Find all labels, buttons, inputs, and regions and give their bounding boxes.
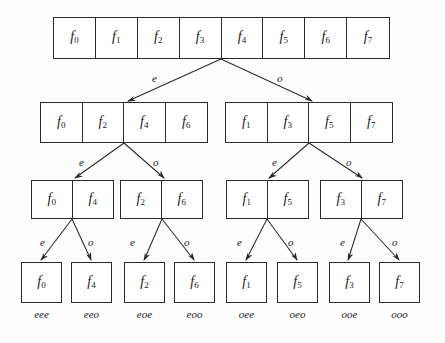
- leaf-path-label: eee: [21, 308, 62, 320]
- array-leaf-eee: f0: [21, 262, 62, 303]
- array-cell: f3: [268, 103, 310, 142]
- array-cell: f7: [351, 103, 392, 142]
- cell-label: f5: [284, 192, 292, 207]
- cell-label: f6: [321, 30, 329, 45]
- leaf-path-label: eeo: [71, 308, 112, 320]
- edge-label-odd: o: [184, 236, 190, 248]
- cell-label: f6: [178, 192, 186, 207]
- leaf-path-label: eoe: [124, 308, 165, 320]
- array-cell: f4: [73, 181, 113, 218]
- array-cell: f2: [138, 18, 180, 58]
- array-leaf-ooe: f3: [329, 262, 370, 303]
- figure-canvas: f0 f1 f2 f3 f4 f5: [0, 0, 445, 343]
- array-cell: f2: [83, 103, 125, 142]
- array-l1-even: f0 f2 f4 f6: [40, 102, 208, 143]
- array-cell: f3: [321, 181, 362, 218]
- cell-label: f3: [284, 115, 292, 130]
- leaf-path-label: oee: [226, 308, 267, 320]
- array-l2-oo: f3 f7: [320, 180, 403, 219]
- array-cell: f6: [166, 103, 207, 142]
- leaf-path-label: oeo: [277, 308, 318, 320]
- edge-label-odd: o: [153, 156, 159, 168]
- array-cell: f1: [96, 18, 138, 58]
- cell-label: f4: [87, 275, 95, 290]
- cell-label: f0: [48, 192, 56, 207]
- cell-label: f7: [367, 115, 375, 130]
- edge-label-odd: o: [88, 236, 94, 248]
- array-cell: f0: [22, 263, 61, 302]
- array-cell: f3: [330, 263, 369, 302]
- array-root: f0 f1 f2 f3 f4 f5: [53, 17, 390, 59]
- array-l1-odd: f1 f3 f5 f7: [225, 102, 393, 143]
- leaf-path-label: ooo: [379, 308, 420, 320]
- array-leaf-ooo: f7: [379, 262, 420, 303]
- array-cell: f4: [72, 263, 111, 302]
- edge-label-even: e: [237, 236, 242, 248]
- cell-label: f4: [140, 115, 148, 130]
- edge-label-even: e: [152, 72, 157, 84]
- array-cell: f1: [226, 103, 268, 142]
- array-cell: f5: [278, 263, 317, 302]
- cell-label: f3: [337, 192, 345, 207]
- array-cell: f0: [41, 103, 83, 142]
- cell-label: f2: [137, 192, 145, 207]
- edge-label-even: e: [340, 236, 345, 248]
- cell-label: f7: [378, 192, 386, 207]
- cell-label: f2: [140, 275, 148, 290]
- array-cell: f7: [362, 181, 402, 218]
- cell-label: f5: [325, 115, 333, 130]
- cell-label: f2: [99, 115, 107, 130]
- edge-label-even: e: [40, 236, 45, 248]
- cell-label: f1: [243, 192, 251, 207]
- array-cell: f2: [121, 181, 162, 218]
- edge-label-odd: o: [277, 72, 283, 84]
- array-cell: f6: [305, 18, 347, 58]
- array-cell: f6: [162, 181, 202, 218]
- array-cell: f6: [175, 263, 214, 302]
- cell-label: f3: [196, 30, 204, 45]
- cell-label: f7: [364, 30, 372, 45]
- leaf-path-label: eoo: [174, 308, 215, 320]
- array-l2-eo: f2 f6: [120, 180, 203, 219]
- array-cell: f3: [180, 18, 222, 58]
- cell-label: f3: [345, 275, 353, 290]
- cell-label: f0: [57, 115, 65, 130]
- cell-label: f7: [395, 275, 403, 290]
- array-leaf-eoe: f2: [124, 262, 165, 303]
- array-l2-ee: f0 f4: [31, 180, 114, 219]
- cell-label: f4: [238, 30, 246, 45]
- array-cell: f0: [54, 18, 96, 58]
- cell-label: f4: [89, 192, 97, 207]
- array-cell: f5: [309, 103, 351, 142]
- array-cell: f0: [32, 181, 73, 218]
- edge-label-odd: o: [392, 236, 398, 248]
- edge-label-even: e: [130, 236, 135, 248]
- array-cell: f4: [222, 18, 264, 58]
- cell-label: f2: [154, 30, 162, 45]
- cell-label: f6: [190, 275, 198, 290]
- cell-label: f6: [182, 115, 190, 130]
- array-cell: f1: [227, 263, 266, 302]
- array-leaf-eeo: f4: [71, 262, 112, 303]
- leaf-path-label: ooe: [329, 308, 370, 320]
- cell-label: f1: [112, 30, 120, 45]
- cell-label: f1: [242, 275, 250, 290]
- array-cell: f7: [347, 18, 389, 58]
- array-cell: f5: [263, 18, 305, 58]
- array-cell: f1: [227, 181, 268, 218]
- edge-label-even: e: [79, 156, 84, 168]
- array-leaf-eoo: f6: [174, 262, 215, 303]
- edge-label-odd: o: [288, 236, 294, 248]
- array-cell: f5: [268, 181, 308, 218]
- array-cell: f7: [380, 263, 419, 302]
- cell-label: f0: [70, 30, 78, 45]
- array-l2-oe: f1 f5: [226, 180, 309, 219]
- edge-label-even: e: [272, 156, 277, 168]
- cell-label: f0: [37, 275, 45, 290]
- cell-label: f1: [242, 115, 250, 130]
- cell-label: f5: [293, 275, 301, 290]
- array-cell: f2: [125, 263, 164, 302]
- cell-label: f5: [280, 30, 288, 45]
- array-leaf-oeo: f5: [277, 262, 318, 303]
- array-cell: f4: [124, 103, 166, 142]
